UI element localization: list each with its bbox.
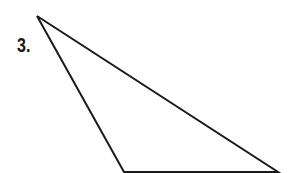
triangle [37,16,278,172]
triangle-figure [0,0,288,173]
